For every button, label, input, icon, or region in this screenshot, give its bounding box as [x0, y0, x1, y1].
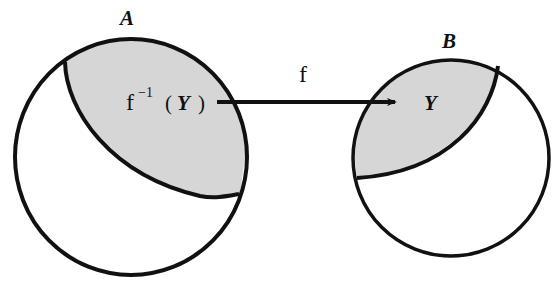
set-b	[340, 40, 549, 256]
preimage-arg: Y	[177, 91, 192, 115]
preimage-diagram: A B f f −1 ( Y ) Y	[0, 0, 560, 295]
preimage-exponent: −1	[138, 85, 153, 100]
preimage-close-paren: )	[198, 91, 205, 115]
preimage-open-paren: (	[165, 91, 172, 115]
y-region-label: Y	[424, 91, 439, 115]
set-b-label: B	[441, 29, 456, 53]
arrow-label: f	[299, 61, 307, 87]
preimage-func-symbol: f	[126, 89, 134, 115]
set-a	[15, 20, 260, 275]
set-a-label: A	[118, 6, 134, 30]
